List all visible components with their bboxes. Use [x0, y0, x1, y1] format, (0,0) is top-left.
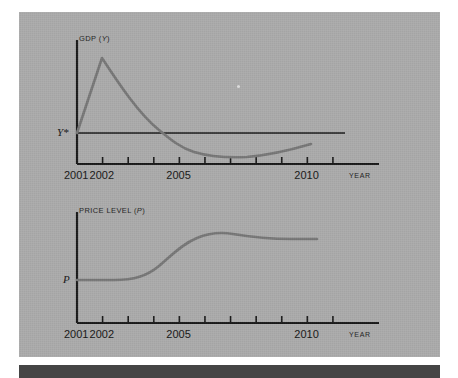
chart-gdp: GDP (Y) Y* 2001 2002 2005 2010 YEAR [19, 12, 440, 192]
gdp-ystar-label: Y* [57, 126, 69, 138]
price-tick-label-2005: 2005 [166, 328, 190, 340]
gdp-tick-label-2002: 2002 [90, 169, 114, 181]
price-tick-label-2001: 2001 [64, 328, 88, 340]
chart-price-level: PRICE LEVEL (P) P 2001 2002 2005 2010 YE… [19, 192, 440, 357]
gdp-y-axis-title: GDP (Y) [79, 34, 110, 43]
price-curve [77, 233, 317, 280]
price-tick-label-2010: 2010 [294, 328, 318, 340]
price-x-axis-title: YEAR [349, 331, 371, 338]
price-y-axis-title: PRICE LEVEL (P) [79, 206, 145, 215]
price-tick-label-2002: 2002 [90, 328, 114, 340]
gdp-tick-label-2001: 2001 [64, 169, 88, 181]
gdp-curve [77, 58, 311, 157]
bottom-rule [19, 365, 440, 378]
gdp-tick-label-2010: 2010 [294, 169, 318, 181]
figure-root: GDP (Y) Y* 2001 2002 2005 2010 YEAR PRIC… [0, 0, 458, 378]
gdp-tick-label-2005: 2005 [166, 169, 190, 181]
illustration-panel: GDP (Y) Y* 2001 2002 2005 2010 YEAR PRIC… [19, 12, 440, 357]
price-p-label: P [63, 273, 70, 285]
gdp-x-axis-title: YEAR [349, 172, 371, 179]
